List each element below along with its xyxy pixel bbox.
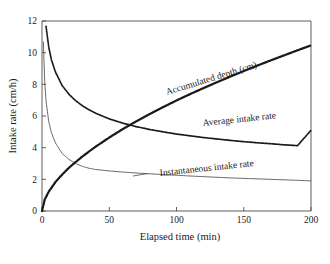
y-tick-label-2: 2	[32, 175, 37, 185]
y-tick-label-12: 12	[28, 16, 38, 26]
x-axis-title: Elapsed time (min)	[140, 231, 221, 243]
y-tick-label-8: 8	[32, 80, 37, 90]
y-tick-label-4: 4	[32, 143, 37, 153]
y-axis-title: Intake rate (cm/h)	[7, 78, 19, 154]
x-tick-label-150: 150	[237, 215, 252, 225]
x-tick-label-200: 200	[304, 215, 319, 225]
chart-figure: 0 2 4 6 8 10 12 0 50 100 150 200 Elapsed…	[0, 0, 330, 264]
x-tick-label-100: 100	[169, 215, 184, 225]
y-tick-label-6: 6	[32, 111, 37, 121]
x-tick-label-0: 0	[40, 215, 45, 225]
chart-plot-area: 0 2 4 6 8 10 12 0 50 100 150 200 Elapsed…	[0, 0, 330, 264]
y-tick-label-10: 10	[28, 48, 38, 58]
y-tick-label-0: 0	[32, 206, 37, 216]
x-tick-label-50: 50	[105, 215, 115, 225]
